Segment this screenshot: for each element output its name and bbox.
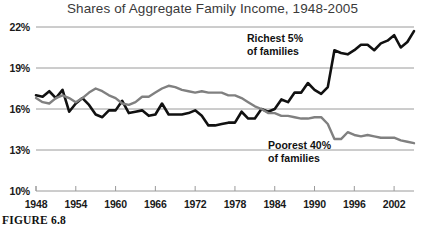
x-axis-tick-label: 1972 xyxy=(175,198,215,210)
series-label-line: of families xyxy=(247,45,303,58)
figure-caption: FIGURE 6.8 xyxy=(2,214,66,226)
y-axis-tick-label: 10% xyxy=(0,185,30,197)
series-label-line: of families xyxy=(268,152,331,165)
y-axis-tick-label: 13% xyxy=(0,144,30,156)
x-axis-tick-label: 1966 xyxy=(135,198,175,210)
x-axis-tick-label: 1948 xyxy=(16,198,56,210)
data-series xyxy=(36,31,414,143)
y-axis-tick-label: 22% xyxy=(0,21,30,33)
y-axis-tick-label: 16% xyxy=(0,103,30,115)
x-axis-tick-label: 1996 xyxy=(334,198,374,210)
series-label-line: Poorest 40% xyxy=(268,139,331,152)
chart-plot-area xyxy=(0,0,425,230)
x-axis-tick-label: 1960 xyxy=(96,198,136,210)
figure-container: Shares of Aggregate Family Income, 1948-… xyxy=(0,0,425,230)
x-axis-ticks xyxy=(36,186,394,191)
x-axis-tick-label: 1978 xyxy=(215,198,255,210)
x-axis-tick-label: 1990 xyxy=(295,198,335,210)
series-label-richest-5: Richest 5%of families xyxy=(247,32,303,57)
x-axis-tick-label: 1954 xyxy=(56,198,96,210)
series-label-line: Richest 5% xyxy=(247,32,303,45)
y-axis-tick-label: 19% xyxy=(0,62,30,74)
series-line-poorest-40 xyxy=(36,86,414,143)
x-axis-tick-label: 2002 xyxy=(374,198,414,210)
series-label-poorest-40: Poorest 40%of families xyxy=(268,139,331,164)
series-line-richest-5 xyxy=(36,31,414,125)
x-axis-tick-label: 1984 xyxy=(255,198,295,210)
